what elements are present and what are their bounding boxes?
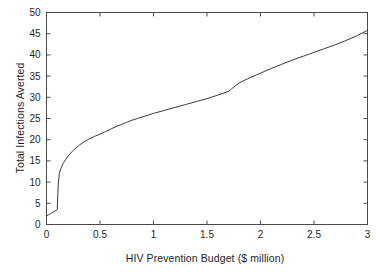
svg-text:0: 0 [35,219,41,230]
data-series-group [47,30,368,216]
svg-text:15: 15 [29,155,41,166]
plot-frame [47,13,368,225]
x-axis-title: HIV Prevention Budget ($ million) [0,252,380,264]
svg-text:25: 25 [29,113,41,124]
svg-text:1.5: 1.5 [200,229,214,240]
y-axis-ticks [47,13,368,225]
svg-text:5: 5 [35,198,41,209]
svg-text:2.5: 2.5 [307,229,321,240]
svg-text:35: 35 [29,71,41,82]
svg-text:50: 50 [29,7,41,18]
svg-text:1: 1 [151,229,157,240]
svg-text:3: 3 [365,229,371,240]
svg-text:0.5: 0.5 [93,229,107,240]
line-chart-plot: 00.511.522.53 05101520253035404550 [0,0,380,272]
svg-text:10: 10 [29,177,41,188]
svg-text:45: 45 [29,28,41,39]
svg-text:0: 0 [44,229,50,240]
chart-figure: 00.511.522.53 05101520253035404550 HIV P… [0,0,380,272]
svg-text:30: 30 [29,92,41,103]
svg-text:40: 40 [29,49,41,60]
svg-text:2: 2 [258,229,264,240]
y-axis-title: Total Infections Averted [14,12,28,224]
x-axis-tick-labels: 00.511.522.53 [44,229,371,240]
x-axis-ticks [47,13,368,225]
svg-text:20: 20 [29,134,41,145]
y-axis-tick-labels: 05101520253035404550 [29,7,41,230]
